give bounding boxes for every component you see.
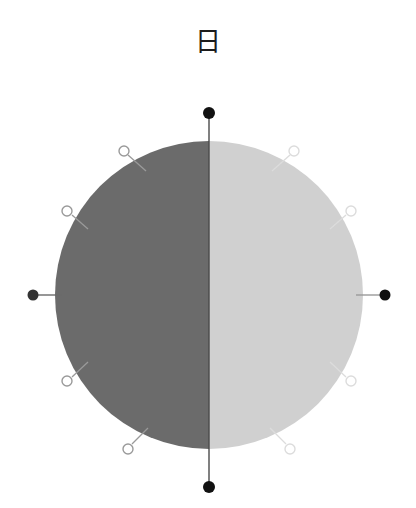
marker-upper-left-outer-ring-icon	[119, 146, 129, 156]
marker-bottom-dot-icon	[203, 481, 215, 493]
marker-lower-right-outer-ring-icon	[285, 444, 295, 454]
marker-upper-left-inner-ring-icon	[62, 206, 72, 216]
page-root: 日	[0, 0, 416, 508]
marker-right-dot-icon	[380, 290, 391, 301]
marker-lower-left-outer-ring-icon	[123, 444, 133, 454]
pie-slice-right-half[interactable]	[209, 141, 363, 449]
marker-lower-right-inner-ring-icon	[346, 376, 356, 386]
pie-slice-left-half[interactable]	[55, 141, 209, 449]
pie-chart-svg	[0, 0, 416, 508]
marker-left-dot-icon	[28, 290, 39, 301]
marker-lower-left-inner-ring-icon	[62, 376, 72, 386]
marker-lower-left-outer[interactable]	[123, 428, 148, 454]
pie-chart-figure	[0, 0, 416, 508]
marker-upper-right-outer-ring-icon	[289, 146, 299, 156]
marker-lower-right-outer[interactable]	[270, 428, 295, 454]
marker-upper-right-inner-ring-icon	[346, 206, 356, 216]
marker-top-dot-icon	[203, 107, 215, 119]
